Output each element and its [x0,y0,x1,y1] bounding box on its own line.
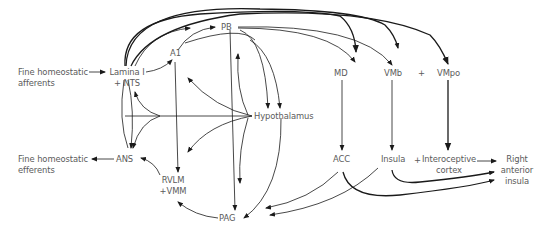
homeostatic-pathway-diagram: Fine homeostatic afferents Lamina I + NT… [0,0,542,229]
plus-sign-1: + [418,68,425,79]
pb-node: PB [221,22,232,33]
lamina-line2: + NTS [107,78,147,89]
rvlm-line2: +VMM [156,186,190,197]
interoceptive-line2: cortex [420,165,478,176]
vmpo-node: VMpo [437,68,460,79]
right-anterior-insula-node: Right anterior insula [497,154,537,187]
pag-node: PAG [219,213,235,224]
lamina-nts-node: Lamina I + NTS [107,67,147,89]
lamina-line1: Lamina I [107,67,147,78]
vmb-node: VMb [384,68,402,79]
a1-node: A1 [170,48,181,59]
md-node: MD [334,68,347,79]
rvlm-line1: RVLM [156,175,190,186]
fine-efferents-line1: Fine homeostatic [18,154,88,165]
ans-node: ANS [116,154,133,165]
insula-node: Insula [381,154,405,165]
right-ai-line1: Right [497,154,537,165]
fine-afferents-label: Fine homeostatic afferents [18,67,88,89]
fine-efferents-line2: efferents [18,165,88,176]
acc-node: ACC [333,154,350,165]
interoceptive-cortex-node: Interoceptive cortex [420,154,478,176]
fine-efferents-label: Fine homeostatic efferents [18,154,88,176]
fine-afferents-line1: Fine homeostatic [18,67,88,78]
right-ai-line3: insula [497,176,537,187]
hypothalamus-node: Hypothalamus [254,111,314,122]
fine-afferents-line2: afferents [18,78,88,89]
interoceptive-line1: Interoceptive [420,154,478,165]
rvlm-vmm-node: RVLM +VMM [156,175,190,197]
right-ai-line2: anterior [497,165,537,176]
